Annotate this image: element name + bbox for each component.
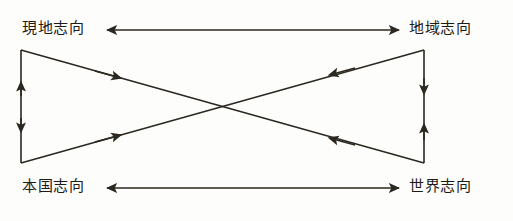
node-label-sekai-shiko: 世界志向 bbox=[409, 179, 471, 194]
node-label-chiiki-shiko: 地域志向 bbox=[409, 21, 471, 36]
diagram-canvas: 現地志向 地域志向 本国志向 世界志向 bbox=[0, 0, 513, 221]
node-label-hongoku-shiko: 本国志向 bbox=[22, 179, 84, 194]
node-label-genchi-shiko: 現地志向 bbox=[22, 21, 84, 36]
